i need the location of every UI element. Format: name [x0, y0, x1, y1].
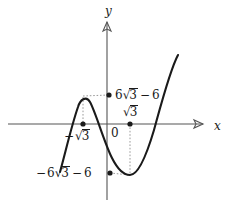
coefficient: 6 — [47, 167, 55, 179]
cubic-curve — [60, 55, 178, 175]
constant: 6 — [84, 167, 92, 179]
square-root-icon: √3 — [123, 105, 138, 118]
radicand: 3 — [82, 129, 91, 142]
radicand: 3 — [130, 105, 139, 118]
local-minimum-value-label: −6√3−6 — [36, 166, 92, 179]
square-root-icon: √3 — [55, 166, 70, 179]
y-axis-label: y — [105, 5, 112, 17]
point-local-minimum-y — [107, 170, 112, 175]
dotted-guide-max-horizontal — [83, 95, 109, 96]
operator: − — [70, 167, 84, 179]
constant: 6 — [152, 89, 160, 101]
radicand: 3 — [129, 88, 138, 101]
x-axis-label: x — [214, 120, 221, 132]
left-root-label: −√3 — [64, 129, 90, 142]
local-maximum-value-label: 6√3−6 — [115, 88, 160, 101]
square-root-icon: √3 — [75, 129, 90, 142]
point-left-root — [80, 121, 85, 126]
radicand: 3 — [61, 166, 70, 179]
point-right-root — [127, 121, 132, 126]
square-root-icon: √3 — [123, 88, 138, 101]
operator: − — [138, 89, 152, 101]
negative-sign: − — [36, 167, 47, 179]
cubic-graph-figure: y x 0 6√3−6 −6√3−6 −√3 √3 — [0, 0, 236, 206]
right-root-label: √3 — [123, 105, 138, 118]
negative-sign: − — [64, 130, 75, 142]
point-local-maximum-y — [106, 92, 111, 97]
coefficient: 6 — [115, 89, 123, 101]
origin-label: 0 — [111, 127, 119, 139]
